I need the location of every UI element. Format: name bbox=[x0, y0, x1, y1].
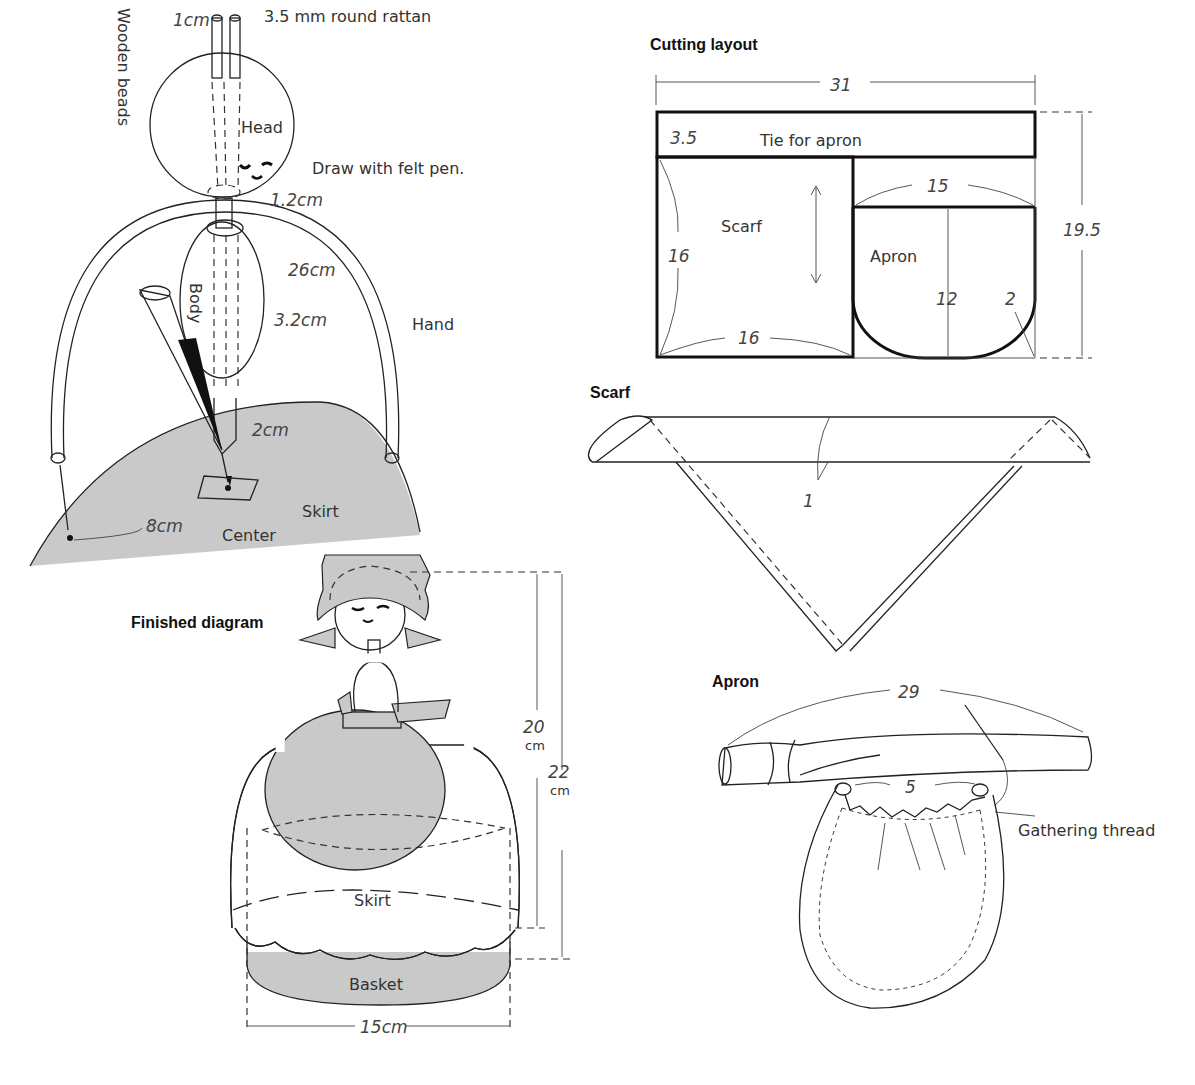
scarf-label: Scarf bbox=[721, 217, 762, 236]
apron-height: 12 bbox=[936, 289, 958, 309]
layout-width: 31 bbox=[830, 75, 852, 95]
scarf-diagram: Scarf 1 bbox=[589, 384, 1091, 651]
finished-skirt-label: Skirt bbox=[354, 891, 391, 910]
assembly-skirt-label: Skirt bbox=[302, 502, 339, 521]
tie-label: Tie for apron bbox=[759, 131, 862, 150]
finished-diagram: Finished diagram Basket Skirt bbox=[131, 555, 570, 1037]
arm-dim: 26cm bbox=[288, 260, 336, 280]
hand-label: Hand bbox=[412, 315, 454, 334]
total-height-unit: cm bbox=[550, 783, 570, 798]
center-label: Center bbox=[222, 526, 276, 545]
wooden-beads-label: Wooden beads bbox=[114, 8, 133, 126]
neck-dim: 1.2cm bbox=[270, 190, 323, 210]
radius-dim: 8cm bbox=[146, 516, 183, 536]
apron-diagram: Apron 29 5 Gathering thread bbox=[712, 673, 1155, 1008]
inner-height-unit: cm bbox=[525, 738, 545, 753]
assembly-diagram: 1cm 3.5 mm round rattan Head Draw with f… bbox=[30, 7, 464, 566]
inner-height: 20 bbox=[523, 717, 545, 737]
scarf-title: Scarf bbox=[590, 384, 631, 401]
layout-height: 19.5 bbox=[1063, 220, 1101, 240]
scarf-height: 16 bbox=[668, 246, 690, 266]
rattan-label: 3.5 mm round rattan bbox=[264, 7, 431, 26]
apron-label: Apron bbox=[870, 247, 917, 266]
scarf-hem: 1 bbox=[803, 491, 814, 511]
felt-pen-label: Draw with felt pen. bbox=[312, 159, 464, 178]
cutting-layout: Cutting layout 31 19.5 3.5 Tie for apron… bbox=[650, 36, 1101, 358]
apron-tie-length: 29 bbox=[898, 682, 920, 702]
apron-gather-width: 5 bbox=[905, 777, 916, 797]
bottom-dim: 2cm bbox=[252, 420, 289, 440]
finished-title: Finished diagram bbox=[131, 614, 263, 631]
cutting-layout-title: Cutting layout bbox=[650, 36, 758, 53]
apron-width: 15 bbox=[927, 176, 949, 196]
scarf-width: 16 bbox=[738, 328, 760, 348]
tie-height: 3.5 bbox=[670, 128, 697, 148]
basket-label: Basket bbox=[349, 975, 403, 994]
gathering-thread-label: Gathering thread bbox=[1018, 821, 1155, 840]
head-label: Head bbox=[241, 118, 283, 137]
total-height: 22 bbox=[548, 762, 570, 782]
diagram-canvas: 1cm 3.5 mm round rattan Head Draw with f… bbox=[0, 0, 1195, 1085]
finished-width: 15cm bbox=[360, 1017, 408, 1037]
body-dim: 3.2cm bbox=[274, 310, 327, 330]
corner-radius: 2 bbox=[1005, 289, 1016, 309]
body-label: Body bbox=[186, 283, 205, 323]
rattan-dim: 1cm bbox=[173, 10, 210, 30]
apron-title: Apron bbox=[712, 673, 759, 690]
